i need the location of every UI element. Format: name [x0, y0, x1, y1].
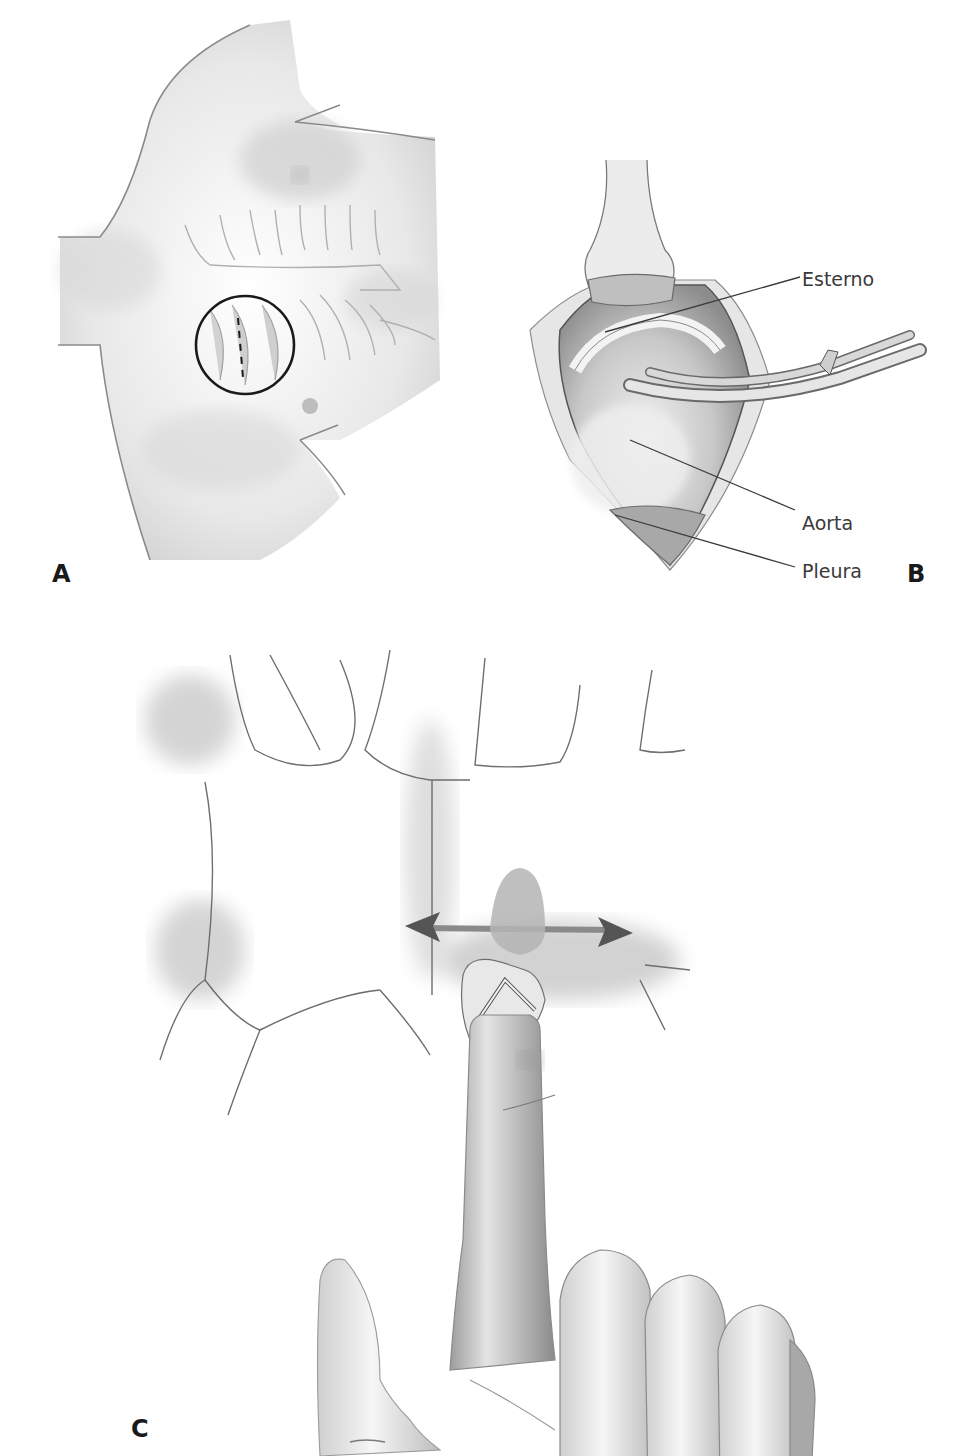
panel-a: A — [0, 0, 480, 600]
sternum-shape — [585, 160, 674, 290]
fingertip-shadow — [490, 868, 545, 955]
finger-dissection-illustration — [0, 600, 957, 1456]
panel-letter-c: C — [131, 1415, 149, 1443]
label-esterno: Esterno — [802, 268, 874, 290]
panel-c: C — [0, 600, 957, 1456]
thumb — [318, 1259, 441, 1456]
thoracic-opening-illustration — [480, 160, 957, 600]
chest-illustration — [0, 0, 480, 600]
label-aorta: Aorta — [802, 512, 853, 534]
pleura-region — [610, 506, 705, 565]
aorta-region — [570, 405, 690, 515]
panel-letter-a: A — [52, 560, 71, 588]
curled-fingers — [560, 1250, 815, 1456]
panel-letter-b: B — [907, 560, 925, 588]
index-finger — [450, 1015, 555, 1370]
label-pleura: Pleura — [802, 560, 862, 582]
panel-b: Esterno Aorta Pleura B — [480, 160, 957, 600]
